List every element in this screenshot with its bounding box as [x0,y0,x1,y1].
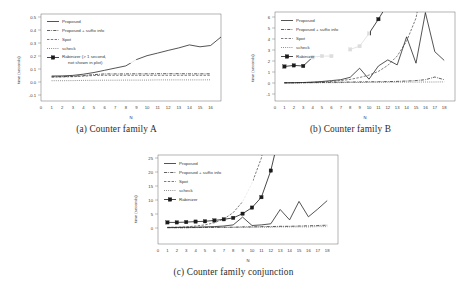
legend-item-spot-b: Spot [296,36,306,41]
svg-text:15: 15 [198,105,203,110]
svg-text:0: 0 [274,105,277,110]
svg-text:3: 3 [72,105,75,110]
caption-a: (a) Counter family A [0,124,233,134]
legend-item-proposed-a: Proposed [62,19,81,24]
legend-item-proposed-c: Proposed [179,161,198,166]
svg-text:12: 12 [166,105,171,110]
svg-text:0.2: 0.2 [30,54,36,59]
svg-text:15: 15 [414,105,419,110]
svg-text:1: 1 [268,70,271,75]
y-axis-ticks-c: 25 20 15 10 5 0 [148,156,153,231]
svg-text:18: 18 [442,105,447,110]
y-axis-label-a: time (seconds) [16,56,21,84]
legend-item-spot-c: Spot [179,179,189,184]
legend-a: Proposed Proposed + suffix info Spot sch… [44,16,136,65]
legend-b: Proposed Proposed + suffix info Spot sch… [278,15,370,59]
y-axis-ticks-a: 0.5 0.4 0.3 0.2 0.1 0.0 -0.1 [29,15,37,98]
svg-text:12: 12 [268,248,273,253]
legend-item-rabinizer-a: Rabinizer (> 1 second, [62,54,106,59]
svg-text:12: 12 [385,105,390,110]
svg-text:7: 7 [340,105,343,110]
chart-c: time (seconds) 25 20 15 10 5 0 0 1 2 3 4… [117,145,350,267]
legend-item-rabinizer-c: Rabinizer [179,197,198,202]
panel-counter-family-b: time (seconds) 6 5 4 3 2 1 0 -1 0 1 2 [234,2,467,138]
series-spot-a [52,75,211,77]
svg-text:15: 15 [297,248,302,253]
y-axis-label-b: time (seconds) [250,54,255,82]
svg-text:16: 16 [208,105,213,110]
svg-text:5: 5 [151,212,154,217]
panel-counter-family-a: time (seconds) 0.5 0.4 0.3 0.2 0.1 0.0 -… [0,2,233,138]
caption-b: (b) Counter family B [234,124,467,134]
legend-item-rabinizer-b: Rabinizer [296,54,315,59]
svg-text:6: 6 [213,248,216,253]
legend-item-proposed-suffix-b: Proposed + suffix info [296,27,339,32]
svg-text:13: 13 [278,248,283,253]
svg-text:7: 7 [114,105,117,110]
svg-text:4: 4 [268,37,271,42]
legend-item-proposed-suffix-c: Proposed + suffix info [179,170,222,175]
svg-text:10: 10 [367,105,372,110]
svg-text:10: 10 [145,105,150,110]
svg-text:14: 14 [187,105,192,110]
svg-text:5: 5 [204,248,207,253]
y-axis-ticks-b: 6 5 4 3 2 1 0 -1 [266,15,270,97]
svg-text:6: 6 [330,105,333,110]
svg-text:4: 4 [311,105,314,110]
svg-text:8: 8 [349,105,352,110]
svg-text:0: 0 [268,81,271,86]
legend-c: Proposed Proposed + suffix info Spot sch… [161,158,253,202]
svg-text:11: 11 [376,105,381,110]
legend-item-proposed-suffix-a: Proposed + suffix info [62,28,105,33]
caption-c: (c) Counter family conjunction [117,267,350,277]
svg-text:8: 8 [125,105,128,110]
panel-counter-family-conjunction: time (seconds) 25 20 15 10 5 0 0 1 2 3 4… [117,145,350,281]
x-axis-ticks-c: 0 1 2 3 4 5 6 7 8 9 10 11 12 13 14 15 16… [157,248,330,253]
svg-text:9: 9 [241,248,244,253]
legend-item-proposed-b: Proposed [296,18,315,23]
svg-text:0.3: 0.3 [30,41,36,46]
svg-text:0.1: 0.1 [30,67,36,72]
svg-text:0.0: 0.0 [30,80,36,85]
svg-text:1: 1 [50,105,53,110]
svg-text:16: 16 [423,105,428,110]
svg-text:25: 25 [148,156,153,161]
svg-text:0: 0 [157,248,160,253]
svg-text:-0.1: -0.1 [29,93,37,98]
svg-text:16: 16 [306,248,311,253]
svg-text:6: 6 [268,15,271,20]
svg-text:20: 20 [148,170,153,175]
svg-text:0: 0 [151,226,154,231]
x-axis-ticks-b: 0 1 2 3 4 5 6 7 8 9 10 11 12 13 14 15 16… [274,105,447,110]
svg-text:9: 9 [358,105,361,110]
y-tickmarks-c [155,158,158,228]
svg-text:10: 10 [148,198,153,203]
svg-text:13: 13 [176,105,181,110]
svg-text:0.4: 0.4 [30,28,36,33]
svg-text:9: 9 [135,105,138,110]
svg-text:14: 14 [404,105,409,110]
legend-item-scheck-c: scheck [179,188,193,193]
y-axis-label-c: time (seconds) [133,195,138,223]
svg-text:7: 7 [223,248,226,253]
x-axis-label-a: N [129,115,132,120]
series-scheck-a [52,80,211,81]
series-proposed-c [167,201,327,228]
x-axis-label-b: N [363,115,366,120]
svg-text:6: 6 [103,105,106,110]
chart-a: time (seconds) 0.5 0.4 0.3 0.2 0.1 0.0 -… [0,2,233,124]
svg-text:15: 15 [148,184,153,189]
svg-text:11: 11 [155,105,160,110]
legend-item-rabinizer-note-a: not shown in plot) [68,60,103,65]
svg-text:18: 18 [325,248,330,253]
svg-text:-1: -1 [266,92,270,97]
svg-text:3: 3 [302,105,305,110]
chart-b: time (seconds) 6 5 4 3 2 1 0 -1 0 1 2 [234,2,467,124]
svg-text:10: 10 [250,248,255,253]
svg-text:5: 5 [321,105,324,110]
svg-text:17: 17 [432,105,437,110]
svg-text:4: 4 [194,248,197,253]
x-axis-ticks-a: 0 1 2 3 4 5 6 7 8 9 10 11 12 13 14 15 16 [40,105,214,110]
svg-text:0.5: 0.5 [30,15,36,20]
legend-item-scheck-b: scheck [296,45,310,50]
